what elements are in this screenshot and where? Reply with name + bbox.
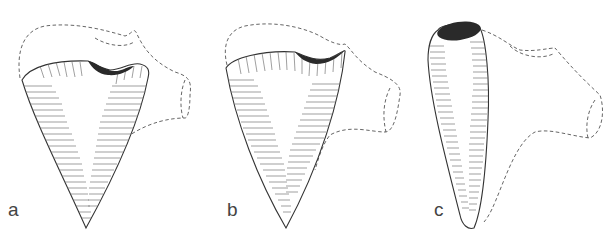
panel-a-label: a — [8, 200, 19, 219]
panel-c-dashed-outline — [482, 30, 603, 222]
panel-a-dashed-side — [181, 80, 185, 118]
panel-b-label: b — [227, 200, 238, 219]
illustration-canvas — [0, 0, 603, 232]
panel-c-label: c — [434, 200, 444, 219]
panel-a-dashed-inner — [95, 38, 134, 45]
panel-b — [225, 24, 400, 228]
panel-c-dashed-side — [587, 100, 595, 138]
panel-a — [19, 25, 190, 228]
panel-b-cone — [226, 51, 345, 228]
panel-c-dashed-inner — [510, 46, 553, 57]
figure: a b c — [0, 0, 603, 232]
panel-c — [428, 19, 603, 228]
panel-b-dashed-side — [384, 88, 390, 132]
